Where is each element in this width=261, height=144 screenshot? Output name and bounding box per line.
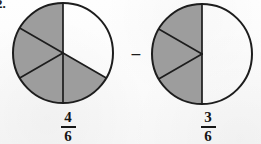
- fraction-denominator: 6: [188, 128, 228, 144]
- fraction-numerator: 3: [188, 110, 228, 126]
- item-number: 2.: [0, 0, 6, 10]
- fraction-label-2: 3 6: [188, 110, 228, 144]
- pie-slice-shaded: [63, 53, 106, 103]
- pie-chart-2: [152, 1, 256, 109]
- pie-chart-2-shaded-sectors: [152, 4, 202, 104]
- pie-chart-1-svg: [11, 0, 117, 110]
- pie-chart-2-svg: [152, 1, 256, 109]
- fraction-label-1: 4 6: [48, 110, 88, 144]
- fraction-denominator: 6: [48, 128, 88, 144]
- worksheet-problem: 2.: [0, 0, 261, 144]
- pie-chart-1: [11, 0, 117, 110]
- minus-sign: −: [126, 45, 146, 64]
- fraction-numerator: 4: [48, 110, 88, 126]
